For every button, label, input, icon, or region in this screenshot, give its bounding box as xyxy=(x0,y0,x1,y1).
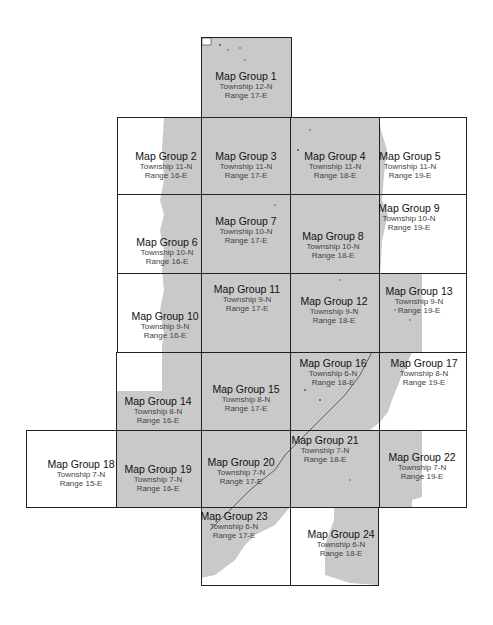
map-group-8-label: Map Group 8 Township 10-N Range 18-E xyxy=(302,230,363,260)
map-group-23-label: Map Group 23 Township 6-N Range 17-E xyxy=(200,510,267,540)
group-township: Township 8-N xyxy=(390,369,457,378)
group-range: Range 18-E xyxy=(299,378,366,387)
group-township: Township 6-N xyxy=(307,540,374,549)
group-range: Range 17-E xyxy=(215,236,276,245)
group-range: Range 19-E xyxy=(388,472,455,481)
group-title: Map Group 1 xyxy=(215,70,276,82)
group-township: Township 9-N xyxy=(385,297,452,306)
group-range: Range 18-E xyxy=(302,251,363,260)
group-township: Township 11-N xyxy=(135,162,196,171)
map-group-19-label: Map Group 19 Township 7-N Range 16-E xyxy=(124,463,191,493)
group-title: Map Group 7 xyxy=(215,215,276,227)
group-range: Range 17-E xyxy=(200,531,267,540)
group-township: Township 7-N xyxy=(291,446,358,455)
group-range: Range 16-E xyxy=(124,416,191,425)
group-title: Map Group 14 xyxy=(124,395,191,407)
group-title: Map Group 10 xyxy=(131,310,198,322)
group-range: Range 17-E xyxy=(212,404,279,413)
group-range: Range 18-E xyxy=(300,316,367,325)
map-group-3-label: Map Group 3 Township 11-N Range 17-E xyxy=(215,150,276,180)
group-title: Map Group 18 xyxy=(47,458,114,470)
group-title: Map Group 12 xyxy=(300,295,367,307)
group-township: Township 9-N xyxy=(131,322,198,331)
group-range: Range 19-E xyxy=(378,223,439,232)
map-group-11-label: Map Group 11 Township 9-N Range 17-E xyxy=(214,283,280,313)
map-group-7-label: Map Group 7 Township 10-N Range 17-E xyxy=(215,215,276,245)
group-range: Range 18-E xyxy=(307,549,374,558)
map-group-4-label: Map Group 4 Township 11-N Range 18-E xyxy=(304,150,365,180)
group-township: Township 7-N xyxy=(124,475,191,484)
group-range: Range 17-E xyxy=(207,477,274,486)
map-group-6-label: Map Group 6 Township 10-N Range 16-E xyxy=(136,236,197,266)
map-group-5-label: Map Group 5 Township 11-N Range 19-E xyxy=(379,150,440,180)
map-group-20-label: Map Group 20 Township 7-N Range 17-E xyxy=(207,456,274,486)
group-range: Range 19-E xyxy=(379,171,440,180)
group-township: Township 8-N xyxy=(124,407,191,416)
group-range: Range 19-E xyxy=(390,378,457,387)
group-title: Map Group 16 xyxy=(299,357,366,369)
map-group-10-label: Map Group 10 Township 9-N Range 16-E xyxy=(131,310,198,340)
group-title: Map Group 2 xyxy=(135,150,196,162)
map-group-17-label: Map Group 17 Township 8-N Range 19-E xyxy=(390,357,457,387)
group-township: Township 10-N xyxy=(378,214,439,223)
map-group-1-label: Map Group 1 Township 12-N Range 17-E xyxy=(215,70,276,100)
group-title: Map Group 15 xyxy=(212,383,279,395)
map-group-9-label: Map Group 9 Township 10-N Range 19-E xyxy=(378,202,439,232)
map-group-15-label: Map Group 15 Township 8-N Range 17-E xyxy=(212,383,279,413)
group-township: Township 6-N xyxy=(299,369,366,378)
group-township: Township 11-N xyxy=(304,162,365,171)
group-township: Township 11-N xyxy=(215,162,276,171)
group-township: Township 8-N xyxy=(212,395,279,404)
group-township: Township 12-N xyxy=(215,82,276,91)
group-township: Township 7-N xyxy=(388,463,455,472)
group-range: Range 15-E xyxy=(47,479,114,488)
group-range: Range 16-E xyxy=(135,171,196,180)
group-township: Township 7-N xyxy=(207,468,274,477)
group-range: Range 17-E xyxy=(214,304,280,313)
group-range: Range 16-E xyxy=(136,257,197,266)
group-title: Map Group 6 xyxy=(136,236,197,248)
map-group-16-label: Map Group 16 Township 6-N Range 18-E xyxy=(299,357,366,387)
group-title: Map Group 21 xyxy=(291,434,358,446)
map-group-13-label: Map Group 13 Township 9-N Range 19-E xyxy=(385,285,452,315)
map-group-18-label: Map Group 18 Township 7-N Range 15-E xyxy=(47,458,114,488)
group-range: Range 19-E xyxy=(385,306,452,315)
group-title: Map Group 24 xyxy=(307,528,374,540)
group-township: Township 7-N xyxy=(47,470,114,479)
group-title: Map Group 13 xyxy=(385,285,452,297)
group-range: Range 18-E xyxy=(304,171,365,180)
group-township: Township 9-N xyxy=(214,295,280,304)
map-group-2-label: Map Group 2 Township 11-N Range 16-E xyxy=(135,150,196,180)
group-title: Map Group 4 xyxy=(304,150,365,162)
group-title: Map Group 3 xyxy=(215,150,276,162)
group-title: Map Group 8 xyxy=(302,230,363,242)
group-range: Range 16-E xyxy=(131,331,198,340)
group-township: Township 10-N xyxy=(136,248,197,257)
group-range: Range 17-E xyxy=(215,91,276,100)
map-group-12-label: Map Group 12 Township 9-N Range 18-E xyxy=(300,295,367,325)
group-township: Township 6-N xyxy=(200,522,267,531)
map-group-21-label: Map Group 21 Township 7-N Range 18-E xyxy=(291,434,358,464)
group-title: Map Group 23 xyxy=(200,510,267,522)
group-range: Range 18-E xyxy=(291,455,358,464)
group-title: Map Group 17 xyxy=(390,357,457,369)
map-group-14-label: Map Group 14 Township 8-N Range 16-E xyxy=(124,395,191,425)
group-township: Township 10-N xyxy=(215,227,276,236)
group-title: Map Group 11 xyxy=(214,283,280,295)
group-range: Range 16-E xyxy=(124,484,191,493)
group-township: Township 10-N xyxy=(302,242,363,251)
group-title: Map Group 20 xyxy=(207,456,274,468)
map-group-24-label: Map Group 24 Township 6-N Range 18-E xyxy=(307,528,374,558)
group-title: Map Group 5 xyxy=(379,150,440,162)
group-title: Map Group 19 xyxy=(124,463,191,475)
group-title: Map Group 9 xyxy=(378,202,439,214)
township-index-map: Map Group 1 Township 12-N Range 17-E Map… xyxy=(0,0,493,625)
group-township: Township 11-N xyxy=(379,162,440,171)
map-group-22-label: Map Group 22 Township 7-N Range 19-E xyxy=(388,451,455,481)
group-range: Range 17-E xyxy=(215,171,276,180)
group-title: Map Group 22 xyxy=(388,451,455,463)
group-township: Township 9-N xyxy=(300,307,367,316)
